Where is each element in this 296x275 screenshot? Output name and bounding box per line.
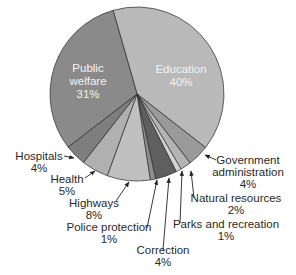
- arrow-hospitals-icon: [64, 156, 74, 158]
- svg-text:Public: Public: [72, 62, 104, 74]
- svg-text:2%: 2%: [228, 204, 245, 216]
- svg-text:Police protection: Police protection: [66, 221, 151, 233]
- arrow-government-icon: [205, 155, 216, 160]
- label-police-protection: Police protection 1%: [66, 221, 151, 245]
- svg-text:Government: Government: [216, 154, 280, 166]
- label-hospitals: Hospitals 4%: [15, 150, 63, 174]
- svg-text:Natural resources: Natural resources: [191, 192, 282, 204]
- svg-text:Highways: Highways: [69, 197, 119, 209]
- svg-text:4%: 4%: [155, 256, 172, 268]
- svg-text:Health: Health: [50, 173, 83, 185]
- label-correction: Correction 4%: [136, 244, 189, 268]
- svg-text:4%: 4%: [240, 178, 257, 190]
- pie-chart: Education 40% Public welfare 31% Hospita…: [0, 0, 296, 275]
- svg-text:Hospitals: Hospitals: [15, 150, 63, 162]
- arrow-parks-icon: [180, 171, 182, 223]
- arrow-correction-icon: [163, 178, 169, 250]
- svg-text:administration: administration: [212, 166, 284, 178]
- label-health: Health 5%: [50, 173, 83, 197]
- svg-text:31%: 31%: [76, 88, 99, 100]
- svg-text:welfare: welfare: [68, 75, 106, 87]
- svg-text:5%: 5%: [59, 185, 76, 197]
- label-parks-and-recreation: Parks and recreation 1%: [173, 218, 279, 242]
- svg-text:8%: 8%: [86, 209, 103, 221]
- svg-text:Correction: Correction: [136, 244, 189, 256]
- svg-text:Education: Education: [155, 63, 206, 75]
- svg-text:1%: 1%: [218, 230, 235, 242]
- svg-text:1%: 1%: [101, 233, 118, 245]
- svg-text:4%: 4%: [31, 162, 48, 174]
- svg-text:Parks and recreation: Parks and recreation: [173, 218, 279, 230]
- arrow-health-icon: [85, 171, 95, 178]
- label-natural-resources: Natural resources 2%: [191, 192, 282, 216]
- svg-text:40%: 40%: [169, 76, 192, 88]
- label-highways: Highways 8%: [69, 197, 119, 221]
- label-government-administration: Government administration 4%: [212, 154, 284, 190]
